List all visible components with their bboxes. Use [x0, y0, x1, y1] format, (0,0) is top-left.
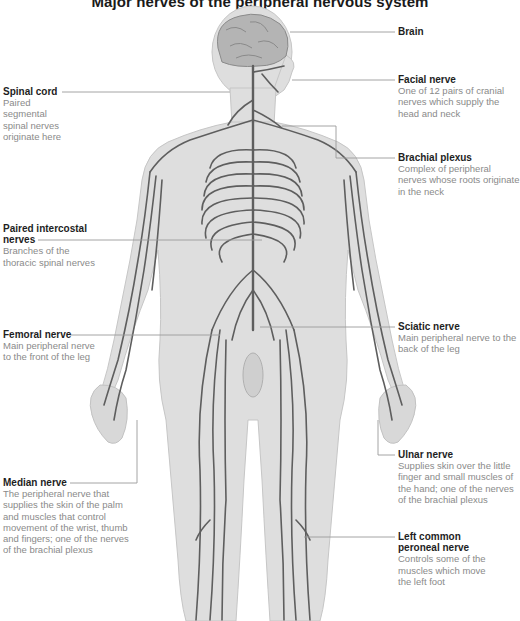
genitals — [243, 353, 263, 397]
label-heading: Median nerve — [3, 477, 131, 488]
label-heading: Femoral nerve — [3, 329, 101, 340]
label-brain: Brain — [398, 26, 424, 37]
label-heading: Paired intercostal nerves — [3, 223, 103, 245]
label-description: One of 12 pairs of cranial nerves which … — [398, 85, 518, 119]
label-femoral-nerve: Femoral nerve Main peripheral nerve to t… — [3, 329, 101, 363]
label-heading: Left common peroneal nerve — [398, 531, 488, 553]
label-description: Branches of the thoracic spinal nerves — [3, 245, 103, 267]
label-brachial-plexus: Brachial plexus Complex of peripheral ne… — [398, 152, 520, 197]
label-facial-nerve: Facial nerve One of 12 pairs of cranial … — [398, 74, 518, 119]
label-ulnar-nerve: Ulnar nerve Supplies skin over the littl… — [398, 449, 518, 505]
label-spinal-cord: Spinal cord Paired segmental spinal nerv… — [3, 86, 123, 142]
label-description: Paired segmental spinal nerves originate… — [3, 97, 73, 142]
label-description: Controls some of the muscles which move … — [398, 553, 488, 587]
label-description: Main peripheral nerve to the back of the… — [398, 332, 520, 354]
label-heading: Facial nerve — [398, 74, 518, 85]
brain — [217, 14, 288, 66]
label-description: Main peripheral nerve to the front of th… — [3, 340, 101, 362]
label-heading: Spinal cord — [3, 86, 123, 97]
label-paired-intercostal: Paired intercostal nerves Branches of th… — [3, 223, 103, 268]
label-sciatic-nerve: Sciatic nerve Main peripheral nerve to t… — [398, 321, 520, 355]
label-description: Supplies skin over the little finger and… — [398, 460, 518, 505]
label-description: The peripheral nerve that supplies the s… — [3, 488, 131, 555]
label-left-common-peroneal: Left common peroneal nerve Controls some… — [398, 531, 488, 587]
label-heading: Sciatic nerve — [398, 321, 520, 332]
label-median-nerve: Median nerve The peripheral nerve that s… — [3, 477, 131, 555]
label-heading: Ulnar nerve — [398, 449, 518, 460]
label-description: Complex of peripheral nerves whose roots… — [398, 163, 520, 197]
label-heading: Brain — [398, 26, 424, 37]
label-heading: Brachial plexus — [398, 152, 520, 163]
